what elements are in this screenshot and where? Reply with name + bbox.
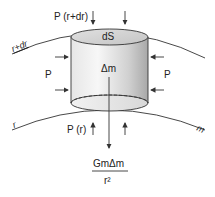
inner-shell-arc bbox=[12, 110, 205, 130]
enclosed-mass-label: m bbox=[195, 123, 206, 135]
bottom-pressure-label: P (r) bbox=[67, 124, 86, 135]
outer-shell-label: r+dr bbox=[10, 38, 30, 54]
left-pressure-label: P bbox=[45, 69, 52, 80]
diagram-canvas: P (r+dr) dS Δm P P P (r) r+dr r m GmΔm r… bbox=[0, 0, 215, 197]
gravity-denominator: r² bbox=[104, 175, 111, 186]
top-surface-label: dS bbox=[102, 31, 115, 42]
gravity-numerator: GmΔm bbox=[93, 158, 124, 169]
top-pressure-label: P (r+dr) bbox=[54, 11, 88, 22]
right-pressure-label: P bbox=[164, 69, 171, 80]
mass-element-label: Δm bbox=[101, 63, 116, 74]
